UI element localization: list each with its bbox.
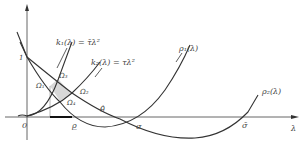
- y-axis-arrow-icon: [25, 4, 29, 11]
- omega2-label: Ω₂: [79, 88, 89, 96]
- rho1-label: ρ₁(λ): [178, 44, 198, 53]
- origin-label: 0: [22, 121, 27, 130]
- diagram-canvas: k₁(λ) = τ̄λ² k₂(λ) = τλ² ρ₁(λ) ρ₂(λ) 1 0…: [0, 0, 304, 149]
- k1-label: k₁(λ) = τ̄λ²: [56, 38, 100, 47]
- rho2-label: ρ₂(λ): [261, 87, 281, 96]
- rho1-leader-line: [176, 53, 182, 62]
- y-tick-label: 1: [19, 54, 23, 62]
- omega3-label: Ω₃: [58, 72, 68, 80]
- rho-under-label: ρ̲: [71, 121, 77, 130]
- k2-label: k₂(λ) = τλ²: [91, 58, 135, 67]
- omega4-label: Ω₄: [66, 99, 76, 107]
- omega1-label: Ω₁: [35, 82, 45, 90]
- sigma-label: σ: [136, 122, 142, 131]
- rho2-leader-line: [258, 95, 270, 102]
- k2-leader-line: [95, 68, 102, 77]
- x-axis-label: λ: [290, 124, 296, 133]
- theta-hat-label: θ̂: [100, 105, 105, 114]
- sigma-bar-label: σ̄: [242, 121, 248, 130]
- x-axis-arrow-icon: [291, 115, 299, 119]
